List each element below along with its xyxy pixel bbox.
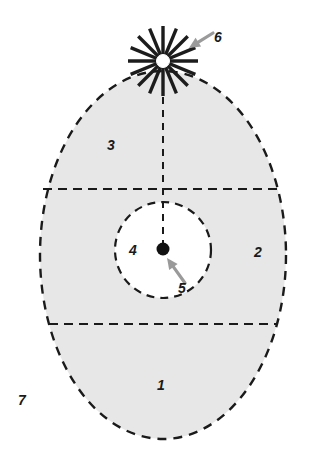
zone-label-1: 1 [157,378,165,392]
zone-label-3: 3 [107,138,115,152]
diagram-canvas [0,0,310,465]
zone-label-2: 2 [254,245,262,259]
zonal-diagram-figure: 1 2 3 4 5 6 7 [0,0,310,465]
zone-label-7: 7 [18,393,26,407]
zone-label-4: 4 [129,243,137,257]
starburst-hub [157,55,170,68]
starburst-source-marker [128,26,198,96]
leader-arrow-to-starburst [189,33,213,48]
zone-label-6: 6 [214,30,222,44]
center-point-marker [157,243,170,256]
zone-label-5: 5 [178,281,186,295]
